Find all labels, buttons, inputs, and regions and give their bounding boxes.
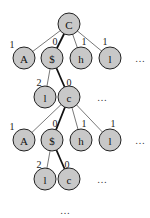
tree-node: C bbox=[58, 13, 80, 35]
tree-node: $ bbox=[41, 129, 63, 151]
edge-weight-label: 1 bbox=[111, 118, 116, 129]
ellipsis-continuation: … bbox=[60, 205, 70, 216]
node-label: h bbox=[78, 53, 84, 65]
node-label: c bbox=[67, 174, 72, 186]
node-label: l bbox=[108, 135, 111, 147]
ellipsis-continuation: … bbox=[97, 174, 107, 185]
node-label: $ bbox=[49, 135, 55, 147]
node-label: A bbox=[20, 53, 28, 65]
node-label: h bbox=[78, 135, 84, 147]
node-label: c bbox=[67, 92, 72, 104]
tree-node: c bbox=[58, 86, 80, 108]
node-label: C bbox=[65, 19, 72, 31]
edge-weight-label: 1 bbox=[103, 36, 108, 47]
node-label: l bbox=[108, 53, 111, 65]
edge-weight-label: 1 bbox=[82, 36, 87, 47]
ellipsis-continuation: … bbox=[97, 92, 107, 103]
tree-node: A bbox=[13, 129, 35, 151]
tree-node: l bbox=[34, 86, 56, 108]
node-label: $ bbox=[49, 53, 55, 65]
tree-node: c bbox=[58, 168, 80, 190]
ellipsis-continuation: … bbox=[135, 53, 145, 64]
tree-node: l bbox=[34, 168, 56, 190]
edge-weight-label: 1 bbox=[10, 121, 15, 132]
tree-node: $ bbox=[41, 47, 63, 69]
node-label: A bbox=[20, 135, 28, 147]
edge-weight-label: 1 bbox=[82, 118, 87, 129]
tree-diagram: 101120101120 CA$hllcA$hllc …………… bbox=[0, 0, 150, 218]
edge-weight-label: 1 bbox=[10, 39, 15, 50]
tree-node: A bbox=[13, 47, 35, 69]
node-label: l bbox=[43, 92, 46, 104]
ellipsis-continuation: … bbox=[135, 135, 145, 146]
node-label: l bbox=[43, 174, 46, 186]
edge-weight-label: 0 bbox=[53, 118, 58, 129]
tree-node: l bbox=[99, 129, 121, 151]
edge-weight-label: 0 bbox=[53, 36, 58, 47]
tree-node: h bbox=[70, 129, 92, 151]
tree-node: l bbox=[99, 47, 121, 69]
tree-node: h bbox=[70, 47, 92, 69]
